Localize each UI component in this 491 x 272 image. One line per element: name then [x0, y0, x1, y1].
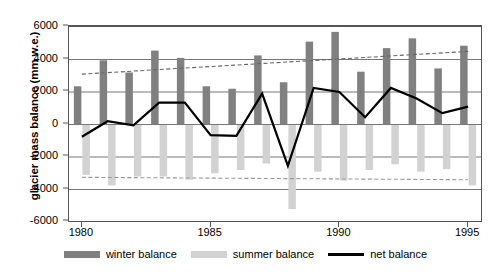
chart-canvas [69, 27, 481, 222]
bar-winter-balance [409, 38, 417, 124]
legend-label: net balance [370, 248, 427, 260]
x-tick-label: 1990 [326, 226, 350, 238]
bar-winter-balance [74, 86, 82, 124]
legend-entry[interactable]: winter balance [64, 248, 177, 260]
bar-winter-balance [151, 51, 159, 125]
legend-label: winter balance [106, 248, 177, 260]
plot-area [68, 25, 482, 222]
legend-bar-swatch-icon [191, 251, 227, 258]
bar-summer-balance [288, 125, 296, 210]
legend-entry[interactable]: summer balance [191, 248, 314, 260]
legend-bar-swatch-icon [64, 251, 100, 258]
bar-winter-balance [228, 89, 236, 125]
bar-summer-balance [340, 125, 348, 181]
x-tick-mark [338, 222, 339, 227]
bar-winter-balance [460, 46, 468, 125]
bar-summer-balance [443, 125, 451, 170]
bar-winter-balance [331, 32, 339, 125]
bar-winter-balance [254, 55, 262, 124]
bar-summer-balance [314, 125, 322, 172]
legend-label: summer balance [233, 248, 314, 260]
x-tick-mark [210, 222, 211, 227]
bar-summer-balance [160, 125, 168, 177]
trendline [82, 177, 468, 179]
x-tick-mark [81, 222, 82, 227]
chart-legend: winter balancesummer balancenet balance [0, 248, 491, 260]
bar-winter-balance [280, 82, 288, 124]
bar-summer-balance [108, 125, 116, 186]
legend-line-swatch-icon [328, 253, 364, 256]
chart-figure: glacier mass balance (mm w.e.) 600040002… [0, 0, 491, 272]
x-tick-label: 1980 [69, 226, 93, 238]
bar-summer-balance [263, 125, 271, 164]
bar-summer-balance [134, 125, 142, 177]
bar-summer-balance [417, 125, 425, 172]
legend-entry[interactable]: net balance [328, 248, 427, 260]
bar-winter-balance [434, 68, 442, 124]
bar-summer-balance [366, 125, 374, 171]
y-axis-title: glacier mass balance (mm w.e.) [28, 6, 40, 226]
bar-winter-balance [203, 86, 211, 124]
bar-summer-balance [211, 125, 219, 174]
bar-winter-balance [125, 73, 133, 125]
x-tick-mark [467, 222, 468, 227]
x-tick-label: 1985 [197, 226, 221, 238]
bar-summer-balance [469, 125, 477, 186]
x-tick-label: 1995 [455, 226, 479, 238]
bar-summer-balance [185, 125, 193, 180]
bar-winter-balance [100, 60, 108, 124]
bar-winter-balance [383, 48, 391, 124]
bar-summer-balance [391, 125, 399, 165]
